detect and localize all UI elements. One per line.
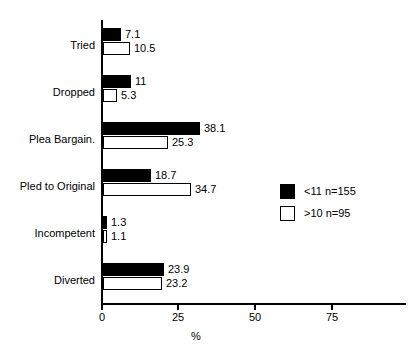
category-label-dropped: Dropped xyxy=(0,86,95,98)
bar-value-plea-bargain-series1: 38.1 xyxy=(204,122,225,135)
category-label-incompetent: Incompetent xyxy=(0,227,95,239)
x-axis-tick-25 xyxy=(177,304,179,310)
x-axis-tick-label-25: 25 xyxy=(163,311,193,323)
bar-value-incompetent-series1: 1.3 xyxy=(111,216,126,229)
bar-incompetent-series2 xyxy=(103,230,107,243)
bar-value-incompetent-series2: 1.1 xyxy=(111,230,126,243)
bar-pled-to-original-series2 xyxy=(103,183,191,196)
x-axis-title: % xyxy=(181,330,211,342)
legend-swatch-filled-icon xyxy=(280,184,295,199)
legend-swatch-outlined-icon xyxy=(280,206,295,221)
x-axis-tick-50 xyxy=(254,304,256,310)
bar-pled-to-original-series1 xyxy=(103,169,151,182)
category-label-plea-bargain: Plea Bargain. xyxy=(0,133,95,145)
bar-tried-series1 xyxy=(103,28,121,41)
legend-label-series1: <11 n=155 xyxy=(304,185,356,197)
bar-incompetent-series1 xyxy=(103,216,107,229)
category-label-tried: Tried xyxy=(0,39,95,51)
x-axis-tick-label-50: 50 xyxy=(240,311,270,323)
bar-dropped-series2 xyxy=(103,89,117,102)
bar-diverted-series1 xyxy=(103,263,164,276)
bar-plea-bargain-series2 xyxy=(103,136,168,149)
x-axis-tick-label-75: 75 xyxy=(317,311,347,323)
category-label-pled-to-original: Pled to Original xyxy=(0,180,95,192)
bar-value-diverted-series1: 23.9 xyxy=(168,263,189,276)
bar-dropped-series1 xyxy=(103,75,131,88)
category-label-diverted: Diverted xyxy=(0,274,95,286)
x-axis-tick-0 xyxy=(101,304,103,310)
bar-value-dropped-series1: 11 xyxy=(135,75,146,88)
bar-chart: 0 25 50 75 % Tried 7.1 10.5 Dropped 11 5… xyxy=(0,0,419,352)
bar-plea-bargain-series1 xyxy=(103,122,200,135)
legend-entry-series2: >10 n=95 xyxy=(280,202,356,224)
bar-value-pled-to-original-series2: 34.7 xyxy=(195,183,216,196)
bar-value-tried-series2: 10.5 xyxy=(134,42,155,55)
bar-value-dropped-series2: 5.3 xyxy=(121,89,136,102)
legend-entry-series1: <11 n=155 xyxy=(280,180,356,202)
y-axis-line xyxy=(101,20,103,304)
chart-legend: <11 n=155 >10 n=95 xyxy=(280,180,356,224)
bar-tried-series2 xyxy=(103,42,130,55)
x-axis-tick-75 xyxy=(331,304,333,310)
bar-value-plea-bargain-series2: 25.3 xyxy=(172,136,193,149)
legend-label-series2: >10 n=95 xyxy=(304,207,351,219)
x-axis-tick-label-0: 0 xyxy=(87,311,117,323)
bar-value-tried-series1: 7.1 xyxy=(125,28,140,41)
bar-diverted-series2 xyxy=(103,277,162,290)
bar-value-diverted-series2: 23.2 xyxy=(166,277,187,290)
bar-value-pled-to-original-series1: 18.7 xyxy=(155,169,176,182)
